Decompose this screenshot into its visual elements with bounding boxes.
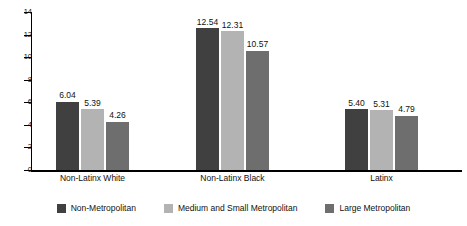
bar[interactable]: 4.79 <box>395 116 418 170</box>
bar-chart: 14121086420 6.045.394.2612.5412.3110.575… <box>0 0 467 226</box>
bar[interactable]: 5.39 <box>81 109 104 170</box>
bar[interactable]: 10.57 <box>246 51 269 170</box>
legend-label: Non-Metropolitan <box>71 204 136 213</box>
y-axis-tick-label: 12 <box>10 31 32 39</box>
legend-label: Large Metropolitan <box>339 204 410 213</box>
y-axis-tick-label: 8 <box>10 76 32 84</box>
bar-group: 12.5412.3110.57 <box>196 12 269 170</box>
x-axis-category-label: Non-Latinx Black <box>173 174 293 183</box>
bar-value-label: 12.31 <box>222 21 243 30</box>
bar-value-label: 10.57 <box>247 40 268 49</box>
bar-value-label: 4.26 <box>109 111 126 120</box>
y-axis-tick-label: 10 <box>10 53 32 61</box>
legend-item[interactable]: Large Metropolitan <box>325 204 410 213</box>
legend-label: Medium and Small Metropolitan <box>178 204 298 213</box>
y-axis-tick-label: 14 <box>10 8 32 16</box>
bar-group: 5.405.314.79 <box>345 12 418 170</box>
bar-value-label: 4.79 <box>398 105 415 114</box>
x-axis-category-label: Non-Latinx White <box>33 174 153 183</box>
y-axis-tick-label: 6 <box>10 99 32 107</box>
legend-swatch-icon <box>57 204 66 213</box>
bar[interactable]: 5.31 <box>370 110 393 170</box>
bar[interactable]: 4.26 <box>106 122 129 170</box>
x-axis-category-label: Latinx <box>322 174 442 183</box>
bar[interactable]: 5.40 <box>345 109 368 170</box>
legend-item[interactable]: Non-Metropolitan <box>57 204 136 213</box>
bar-group: 6.045.394.26 <box>56 12 129 170</box>
legend-swatch-icon <box>325 204 334 213</box>
plot-area: 6.045.394.2612.5412.3110.575.405.314.79 <box>31 12 462 170</box>
bar-value-label: 6.04 <box>59 91 76 100</box>
legend-item[interactable]: Medium and Small Metropolitan <box>164 204 298 213</box>
bar-value-label: 5.39 <box>84 99 101 108</box>
x-axis-line <box>31 170 462 172</box>
bar[interactable]: 6.04 <box>56 102 79 170</box>
bar-value-label: 5.31 <box>373 100 390 109</box>
bar-value-label: 12.54 <box>197 18 218 27</box>
chart-legend: Non-MetropolitanMedium and Small Metropo… <box>0 199 467 217</box>
y-axis-tick-label: 0 <box>10 166 32 174</box>
bar-value-label: 5.40 <box>348 99 365 108</box>
y-axis-tick-label: 2 <box>10 144 32 152</box>
bar[interactable]: 12.31 <box>221 31 244 170</box>
y-axis-tick-label: 4 <box>10 121 32 129</box>
legend-swatch-icon <box>164 204 173 213</box>
bar[interactable]: 12.54 <box>196 28 219 170</box>
